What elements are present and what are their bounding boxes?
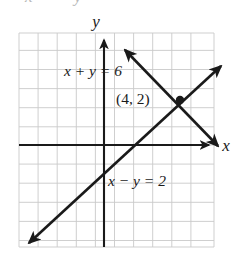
x-axis-label: x — [221, 136, 230, 155]
intersection-point-marker — [176, 96, 184, 104]
y-axis-label: y — [90, 12, 100, 31]
equation-label-line1: x + y = 6 — [63, 62, 122, 79]
coordinate-graph-figure: x y — [0, 0, 246, 255]
graph-canvas: y x x + y = 6 (4, 2) x − y = 2 — [0, 0, 246, 255]
equation-label-line2: x − y = 2 — [107, 172, 166, 189]
intersection-point-label: (4, 2) — [116, 90, 150, 108]
